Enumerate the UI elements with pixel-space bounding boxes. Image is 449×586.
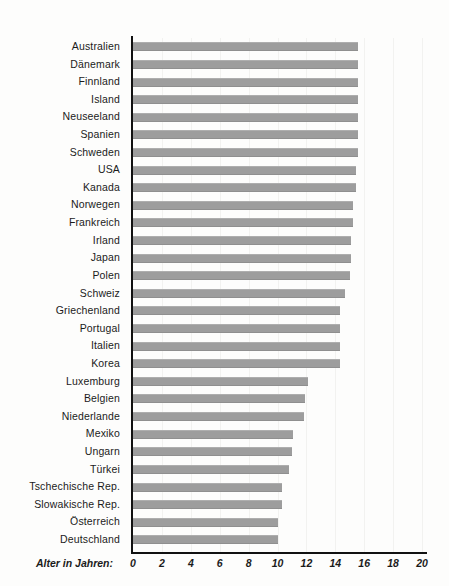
category-label: Finnland (0, 73, 126, 91)
bar-row (133, 161, 427, 179)
category-label: Neuseeland (0, 108, 126, 126)
bar-row (133, 179, 427, 197)
bar (133, 183, 356, 192)
category-label: Polen (0, 267, 126, 285)
bar (133, 483, 282, 492)
bar (133, 130, 358, 139)
bars-container (133, 38, 427, 550)
bar (133, 42, 358, 51)
bar-row (133, 144, 427, 162)
bar (133, 324, 340, 333)
bar-row (133, 337, 427, 355)
category-label: Slowakische Rep. (0, 496, 126, 514)
x-tick-label: 8 (246, 557, 252, 569)
bar-row (133, 56, 427, 74)
bar (133, 271, 350, 280)
category-label: Dänemark (0, 56, 126, 74)
x-tick-label: 18 (387, 557, 399, 569)
category-label: Schweiz (0, 285, 126, 303)
bar-row (133, 443, 427, 461)
x-axis-line (131, 552, 427, 554)
bar-row (133, 478, 427, 496)
bar-chart: AustralienDänemarkFinnlandIslandNeuseela… (0, 0, 449, 586)
category-label: Belgien (0, 390, 126, 408)
bar (133, 166, 356, 175)
bar-row (133, 126, 427, 144)
bar-row (133, 355, 427, 373)
x-tick-label: 20 (416, 557, 428, 569)
bar-row (133, 496, 427, 514)
bar-row (133, 390, 427, 408)
category-label: Mexiko (0, 425, 126, 443)
bar (133, 535, 278, 544)
category-label: Korea (0, 355, 126, 373)
category-label: Australien (0, 38, 126, 56)
bar-row (133, 408, 427, 426)
category-label: Niederlande (0, 408, 126, 426)
bar (133, 78, 358, 87)
y-axis-line (131, 36, 133, 554)
category-label: Japan (0, 249, 126, 267)
category-label: Österreich (0, 513, 126, 531)
category-label: Ungarn (0, 443, 126, 461)
bar-row (133, 214, 427, 232)
category-label: Deutschland (0, 531, 126, 549)
category-label: Norwegen (0, 196, 126, 214)
category-label: Schweden (0, 144, 126, 162)
bar-row (133, 513, 427, 531)
x-tick-label: 16 (358, 557, 370, 569)
x-axis-title: Alter in Jahren: (36, 557, 113, 569)
x-tick-label: 6 (217, 557, 223, 569)
bar-row (133, 267, 427, 285)
category-label: Spanien (0, 126, 126, 144)
bar (133, 518, 278, 527)
bar-row (133, 285, 427, 303)
category-label: Tschechische Rep. (0, 478, 126, 496)
bar (133, 218, 353, 227)
x-tick-label: 14 (329, 557, 341, 569)
bar (133, 394, 305, 403)
category-label: Frankreich (0, 214, 126, 232)
bar (133, 289, 345, 298)
bar (133, 447, 292, 456)
bar (133, 465, 289, 474)
x-tick-label: 12 (301, 557, 313, 569)
plot-area: AustralienDänemarkFinnlandIslandNeuseela… (0, 0, 449, 586)
bar-row (133, 38, 427, 56)
category-label: Irland (0, 232, 126, 250)
category-label: Luxemburg (0, 373, 126, 391)
bar-row (133, 425, 427, 443)
x-tick-label: 2 (159, 557, 165, 569)
category-axis-labels: AustralienDänemarkFinnlandIslandNeuseela… (0, 38, 126, 550)
bar (133, 113, 358, 122)
x-tick-label: 10 (272, 557, 284, 569)
bar (133, 306, 340, 315)
x-tick-label: 4 (188, 557, 194, 569)
bar (133, 60, 358, 69)
bar (133, 254, 351, 263)
bar-row (133, 302, 427, 320)
category-label: Griechenland (0, 302, 126, 320)
bar-row (133, 531, 427, 549)
bar-row (133, 91, 427, 109)
bar-row (133, 249, 427, 267)
bar (133, 500, 282, 509)
bar-row (133, 373, 427, 391)
bar-row (133, 461, 427, 479)
category-label: USA (0, 161, 126, 179)
category-label: Portugal (0, 320, 126, 338)
bar-row (133, 108, 427, 126)
bar (133, 412, 304, 421)
bar-row (133, 196, 427, 214)
category-label: Italien (0, 337, 126, 355)
bar (133, 430, 293, 439)
x-tick-label: 0 (130, 557, 136, 569)
category-label: Türkei (0, 461, 126, 479)
bar-row (133, 232, 427, 250)
bar-row (133, 320, 427, 338)
bar (133, 201, 353, 210)
bar (133, 236, 351, 245)
bar (133, 359, 340, 368)
bar (133, 377, 308, 386)
bar (133, 342, 340, 351)
